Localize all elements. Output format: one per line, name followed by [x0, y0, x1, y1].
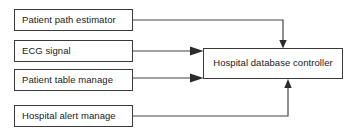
connector-ecg-signal-to-controller — [133, 47, 204, 56]
connector-patient-path-estimator-to-controller — [133, 20, 287, 49]
node-patient-table-manage-label: Patient table manage — [15, 75, 113, 85]
block-diagram: Patient path estimator ECG signal Patien… — [0, 0, 353, 138]
arrowhead-right-icon — [190, 47, 204, 56]
connector-patient-table-manage-to-controller — [133, 74, 204, 83]
node-patient-table-manage: Patient table manage — [14, 69, 133, 91]
node-patient-path-estimator: Patient path estimator — [14, 9, 133, 31]
connector-hospital-alert-manage-to-controller — [133, 79, 292, 116]
node-ecg-signal-label: ECG signal — [15, 46, 71, 56]
node-ecg-signal: ECG signal — [14, 40, 133, 62]
node-hospital-database-controller-label: Hospital database controller — [209, 58, 336, 68]
node-patient-path-estimator-label: Patient path estimator — [15, 15, 116, 25]
node-hospital-alert-manage-label: Hospital alert manage — [15, 111, 116, 121]
arrowhead-up-icon — [284, 79, 291, 88]
arrowhead-right-icon — [190, 74, 204, 83]
node-hospital-alert-manage: Hospital alert manage — [14, 105, 133, 127]
node-hospital-database-controller: Hospital database controller — [203, 48, 343, 79]
